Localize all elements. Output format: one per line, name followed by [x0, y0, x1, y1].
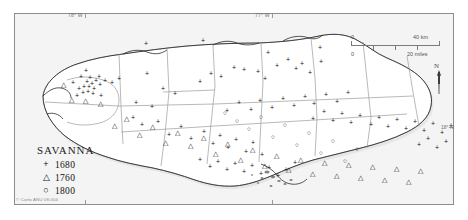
plus-symbol-marker: + [422, 127, 426, 134]
plus-symbol-marker: + [260, 151, 264, 158]
plus-symbol-marker: + [84, 67, 88, 74]
plus-symbol-icon: + [37, 160, 55, 169]
plus-symbol-marker: + [219, 73, 223, 80]
plus-symbol-marker: + [209, 70, 213, 77]
plus-symbol-marker: + [369, 121, 373, 128]
plus-symbol-marker: + [251, 139, 255, 146]
scale-bar: 0 40 km 0 20 miles [351, 32, 443, 62]
plus-symbol-marker: + [340, 110, 344, 117]
plus-symbol-marker: + [117, 75, 121, 82]
triangle-symbol-icon: △ [37, 173, 55, 182]
plus-symbol-marker: + [266, 49, 270, 56]
plus-symbol-marker: + [225, 166, 229, 173]
savanna-distribution-map: ++++++++++++++++++++++++++++++++++++++++… [0, 0, 468, 220]
plus-symbol-marker: + [189, 135, 193, 142]
plus-symbol-marker: + [145, 70, 149, 77]
plus-symbol-marker: + [294, 65, 298, 72]
plus-symbol-marker: + [156, 118, 160, 125]
plus-symbol-marker: + [211, 140, 215, 147]
circle-symbol-marker: ○ [319, 150, 323, 157]
triangle-symbol-marker: △ [98, 101, 103, 108]
plus-symbol-marker: + [275, 62, 279, 69]
plus-symbol-marker: + [198, 78, 202, 85]
triangle-symbol-marker: △ [274, 153, 279, 160]
plus-symbol-marker: + [140, 121, 144, 128]
plus-symbol-marker: + [131, 114, 135, 121]
triangle-symbol-marker: △ [310, 171, 315, 178]
plus-symbol-marker: + [216, 158, 220, 165]
plus-symbol-marker: + [75, 92, 79, 99]
triangle-symbol-marker: △ [286, 167, 291, 174]
north-arrow-label: N [434, 62, 439, 70]
circle-symbol-marker: ○ [235, 118, 239, 125]
map-neatline-frame: ++++++++++++++++++++++++++++++++++++++++… [14, 13, 454, 205]
circle-symbol-marker: ○ [271, 134, 275, 141]
plus-symbol-marker: + [233, 160, 237, 167]
triangle-symbol-marker: △ [61, 82, 66, 89]
plus-symbol-marker: + [97, 73, 101, 80]
scale-tick-mi-10 [395, 45, 396, 50]
plus-symbol-marker: + [250, 162, 254, 169]
plus-symbol-marker: + [318, 44, 322, 51]
plus-symbol-marker: + [431, 120, 435, 127]
triangle-symbol-marker: △ [137, 132, 142, 139]
triangle-symbol-marker: △ [358, 175, 363, 182]
plus-symbol-marker: + [303, 93, 307, 100]
map-legend: SAVANNA + 1680 △ 1760 ○ 1800 [37, 144, 127, 197]
plus-symbol-marker: + [426, 135, 430, 142]
plus-symbol-marker: + [103, 77, 107, 84]
plus-symbol-marker: + [71, 79, 75, 86]
triangle-symbol-marker: △ [83, 98, 88, 105]
plus-symbol-marker: + [312, 100, 316, 107]
plus-symbol-marker: + [242, 66, 246, 73]
triangle-symbol-marker: △ [322, 160, 327, 167]
plus-symbol-marker: + [292, 102, 296, 109]
triangle-symbol-marker: △ [124, 116, 129, 123]
plus-symbol-marker: + [81, 89, 85, 96]
triangle-symbol-marker: △ [238, 157, 243, 164]
plus-symbol-marker: + [417, 141, 421, 148]
plus-symbol-marker: + [435, 144, 439, 151]
plus-symbol-marker: + [258, 97, 262, 104]
plus-symbol-marker: + [256, 68, 260, 75]
plus-symbol-marker: + [161, 85, 165, 92]
plus-symbol-marker: + [232, 64, 236, 71]
plus-symbol-marker: + [281, 95, 285, 102]
plus-symbol-marker: + [300, 60, 304, 67]
plus-symbol-marker: + [237, 99, 241, 106]
legend-label-1680: 1680 [55, 160, 75, 170]
triangle-symbol-marker: △ [163, 140, 168, 147]
plus-symbol-marker: + [249, 106, 253, 113]
legend-entry-1800: ○ 1800 [37, 184, 127, 197]
scale-tick-40 [439, 41, 440, 46]
plus-symbol-marker: + [98, 81, 102, 88]
plus-symbol-marker: + [293, 159, 297, 166]
circle-symbol-marker: ○ [223, 110, 227, 117]
plus-symbol-marker: + [270, 104, 274, 111]
plus-symbol-marker: + [150, 103, 154, 110]
plus-symbol-marker: + [173, 90, 177, 97]
plus-symbol-marker: + [308, 69, 312, 76]
circle-symbol-marker: ○ [283, 122, 287, 129]
plus-symbol-marker: + [404, 125, 408, 132]
triangle-symbol-marker: △ [382, 177, 387, 184]
plus-symbol-marker: + [324, 91, 328, 98]
lon-tick-77w-bottom [272, 200, 273, 204]
circle-symbol-marker: ○ [307, 130, 311, 137]
plus-symbol-marker: + [91, 90, 95, 97]
triangle-symbol-marker: △ [225, 141, 230, 148]
triangle-symbol-marker: △ [150, 124, 155, 131]
triangle-symbol-marker: △ [69, 97, 74, 104]
plus-symbol-marker: + [110, 79, 114, 86]
scale-tick-mi-5 [373, 45, 374, 50]
triangle-symbol-marker: △ [250, 147, 255, 154]
plus-symbol-marker: + [286, 56, 290, 63]
plus-symbol-marker: + [234, 136, 238, 143]
plus-symbol-marker: + [377, 114, 381, 121]
circle-symbol-marker: ○ [259, 114, 263, 121]
plus-symbol-marker: + [322, 108, 326, 115]
plus-symbol-marker: + [134, 99, 138, 106]
circle-symbol-marker: ○ [355, 146, 359, 153]
triangle-symbol-marker: △ [112, 123, 117, 130]
plus-symbol-marker: + [179, 123, 183, 130]
